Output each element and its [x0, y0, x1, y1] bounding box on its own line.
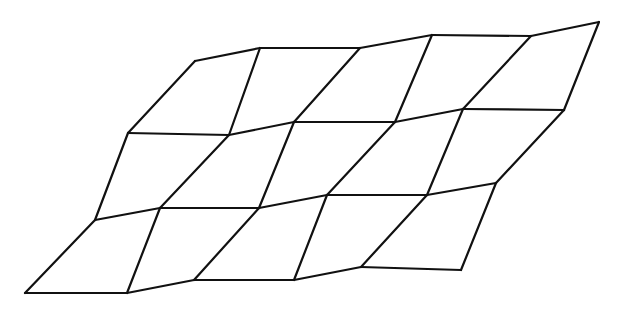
- grid-edge-vertical: [259, 122, 294, 208]
- grid-edge-horizontal: [427, 183, 496, 195]
- grid-edge-vertical: [361, 195, 427, 267]
- grid-edge-vertical: [463, 36, 531, 109]
- grid-edge-horizontal: [395, 109, 463, 122]
- grid-edge-horizontal: [128, 133, 229, 135]
- grid-edge-vertical: [427, 109, 463, 195]
- grid-edge-vertical: [95, 133, 128, 220]
- grid-edge-vertical: [564, 22, 599, 110]
- grid-edge-vertical: [127, 208, 160, 293]
- grid-edge-vertical: [294, 48, 360, 122]
- grid-edge-vertical: [395, 35, 432, 122]
- grid-edge-vertical: [128, 61, 195, 133]
- vertical-grid-lines: [25, 22, 599, 293]
- grid-edge-horizontal: [229, 122, 294, 135]
- grid-edge-horizontal: [360, 35, 432, 48]
- horizontal-grid-lines: [25, 22, 599, 293]
- grid-edge-vertical: [160, 135, 229, 208]
- grid-edge-horizontal: [259, 195, 327, 208]
- grid-edge-horizontal: [463, 109, 564, 110]
- grid-edge-vertical: [25, 220, 95, 293]
- grid-edge-horizontal: [531, 22, 599, 36]
- grid-edge-vertical: [194, 208, 259, 280]
- grid-edge-horizontal: [95, 208, 160, 220]
- grid-edge-horizontal: [432, 35, 531, 36]
- grid-edge-horizontal: [294, 267, 361, 280]
- grid-edge-horizontal: [195, 48, 260, 61]
- grid-edge-vertical: [461, 183, 496, 270]
- grid-edge-vertical: [327, 122, 395, 195]
- grid-edge-vertical: [496, 110, 564, 183]
- grid-edge-vertical: [294, 195, 327, 280]
- lattice-diagram: [0, 0, 620, 317]
- grid-edge-horizontal: [127, 280, 194, 293]
- grid-edge-horizontal: [361, 267, 461, 270]
- grid-edge-vertical: [229, 48, 260, 135]
